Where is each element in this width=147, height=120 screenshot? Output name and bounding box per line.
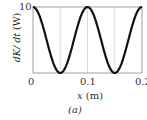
x-axis-label: x (m) bbox=[60, 90, 120, 101]
y-tick-10: 10 bbox=[19, 1, 32, 12]
x-tick-0.1: 0.1 bbox=[80, 76, 96, 87]
x-axis-unit: (m) bbox=[86, 90, 103, 101]
y-axis-label: dK/ dt (W) bbox=[11, 8, 22, 68]
x-tick-0.2: 0.2 bbox=[135, 76, 147, 87]
x-axis-var: x bbox=[77, 90, 83, 101]
y-axis-var: dK/ dt bbox=[11, 33, 22, 62]
x-tick-0: 0 bbox=[28, 76, 34, 87]
y-axis-unit: (W) bbox=[11, 13, 22, 30]
figure-caption: (a) bbox=[60, 104, 90, 115]
grid-lines bbox=[60, 7, 115, 73]
plot-canvas bbox=[0, 0, 147, 120]
